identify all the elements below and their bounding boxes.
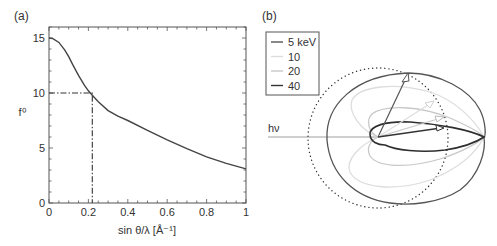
figure: (a) 0 0.2 0.4 0.6 0.8 1 0 5 10 15 sin θ/… <box>0 0 497 246</box>
plot-frame <box>49 27 246 203</box>
arrowhead-icon <box>425 101 434 108</box>
arrowhead-icon <box>435 116 444 122</box>
y-axis-label: f⁰ <box>18 106 26 118</box>
legend-label: 20 <box>288 65 300 77</box>
x-axis-label: sin θ/λ [Å⁻¹] <box>118 224 176 236</box>
xtick-label: 0.8 <box>199 206 214 218</box>
arrow-20kev <box>378 118 441 137</box>
legend-label: 5 keV <box>288 36 317 48</box>
arrowhead-icon <box>402 73 409 82</box>
panel-b-label: (b) <box>262 9 277 23</box>
ytick-label: 15 <box>33 32 45 44</box>
xtick-label: 0.6 <box>160 206 175 218</box>
legend-label: 10 <box>288 51 300 63</box>
xtick-label: 1 <box>243 206 249 218</box>
xtick-label: 0 <box>46 206 52 218</box>
guide-line <box>49 93 92 203</box>
legend-label: 40 <box>288 80 300 92</box>
xtick-label: 0.2 <box>81 206 96 218</box>
ytick-label: 0 <box>39 197 45 209</box>
xtick-label: 0.4 <box>120 206 135 218</box>
ytick-label: 5 <box>39 142 45 154</box>
hv-label: hν <box>268 122 280 134</box>
direction-arrows <box>378 73 444 137</box>
arrow-40kev <box>378 128 441 137</box>
panel-a-label: (a) <box>14 9 29 23</box>
f0-curve <box>49 38 246 169</box>
ytick-label: 10 <box>33 87 45 99</box>
legend: 5 keV 10 20 40 <box>266 32 319 95</box>
panel-a-plot: 0 0.2 0.4 0.6 0.8 1 0 5 10 15 sin θ/λ [Å… <box>18 27 249 236</box>
y-ticks <box>49 27 246 203</box>
x-ticks <box>49 27 246 203</box>
curve-5kev <box>327 73 485 204</box>
